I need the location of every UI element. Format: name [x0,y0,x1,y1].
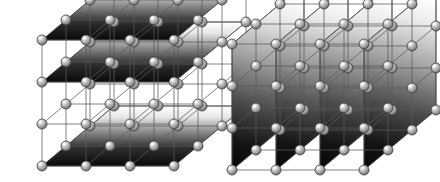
lattice-atom [149,141,159,151]
lattice-atom [339,145,349,155]
lattice-atom [37,161,47,171]
atom-sphere [227,123,237,133]
atom-specular-highlight [385,21,388,24]
atom-sphere [105,141,115,151]
atom-specular-highlight [229,167,232,170]
lattice-atom [105,15,115,25]
lattice-atom [227,123,237,133]
atom-specular-highlight [253,105,256,108]
atom-sphere [193,99,203,109]
lattice-atom [251,61,261,71]
lattice-atom [407,0,417,9]
atom-specular-highlight [433,23,436,26]
atom-specular-highlight [195,17,198,20]
atom-specular-highlight [273,167,276,170]
atom-specular-highlight [341,21,344,24]
atom-specular-highlight [107,143,110,146]
lattice-atom [37,35,47,45]
lattice-atom [37,77,47,87]
lattice-atom [359,81,369,91]
atom-specular-highlight [385,105,388,108]
atom-sphere [339,19,349,29]
atom-sphere [319,0,329,9]
atom-sphere [193,141,203,151]
atom-specular-highlight [127,79,130,82]
atom-sphere [407,125,417,135]
lattice-atom [169,161,179,171]
atom-sphere [37,35,47,45]
lattice-atom [105,99,115,109]
lattice-atom [61,15,71,25]
atom-specular-highlight [195,59,198,62]
atom-specular-highlight [63,143,66,146]
lattice-atom [251,103,261,113]
atom-specular-highlight [63,59,66,62]
lattice-atom [275,0,285,9]
lattice-atom [193,141,203,151]
lattice-atom [359,123,369,133]
atom-sphere [125,161,135,171]
atom-sphere [169,77,179,87]
lattice-atom [125,77,135,87]
atom-sphere [271,123,281,133]
lattice-atom [315,81,325,91]
atom-specular-highlight [277,1,280,4]
lattice-atom [227,81,237,91]
atom-specular-highlight [229,41,232,44]
atom-specular-highlight [341,63,344,66]
atom-specular-highlight [107,17,110,20]
atom-sphere [359,39,369,49]
atom-specular-highlight [127,37,130,40]
lattice-atom [319,0,329,9]
atom-sphere [295,19,305,29]
lattice-atom [271,123,281,133]
atom-sphere [81,77,91,87]
atom-specular-highlight [127,121,130,124]
atom-sphere [407,0,417,9]
atom-sphere [363,0,373,9]
atom-sphere [169,119,179,129]
atom-sphere [169,35,179,45]
atom-sphere [81,35,91,45]
atom-specular-highlight [433,65,436,68]
lattice-atom [81,77,91,87]
lattice-atom [383,61,393,71]
atom-sphere [383,145,393,155]
atom-specular-highlight [107,101,110,104]
lattice-atom [217,37,227,47]
lattice-atom [383,103,393,113]
lattice-atom [295,61,305,71]
atom-specular-highlight [151,143,154,146]
lattice-atom [227,39,237,49]
atom-specular-highlight [409,85,412,88]
atom-sphere [105,15,115,25]
lattice-atom [149,57,159,67]
lattice-atom [383,19,393,29]
atom-specular-highlight [219,123,222,126]
lattice-atom [251,19,261,29]
lattice-atom [169,35,179,45]
atom-sphere [383,61,393,71]
atom-sphere [149,57,159,67]
atom-sphere [315,123,325,133]
lattice-atom [169,119,179,129]
atom-sphere [125,77,135,87]
atom-sphere [61,15,71,25]
atom-sphere [315,81,325,91]
lattice-atom [271,81,281,91]
atom-specular-highlight [361,167,364,170]
atom-sphere [125,119,135,129]
atom-sphere [315,165,325,175]
atom-specular-highlight [243,19,246,22]
lattice-svg-canvas [0,0,440,182]
atom-specular-highlight [83,79,86,82]
atom-sphere [227,39,237,49]
atom-specular-highlight [83,121,86,124]
atom-sphere [125,35,135,45]
atom-sphere [61,57,71,67]
atom-specular-highlight [195,101,198,104]
atom-sphere [37,77,47,87]
lattice-atom [271,165,281,175]
lattice-atom [407,125,417,135]
atom-specular-highlight [171,37,174,40]
